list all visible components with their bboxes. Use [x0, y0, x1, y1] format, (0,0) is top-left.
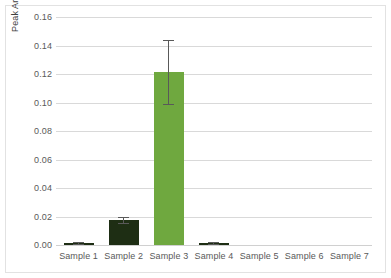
error-bar-cap-lower — [208, 244, 219, 245]
bar-group — [327, 17, 372, 245]
x-axis-tick-label: Sample 1 — [56, 249, 101, 263]
y-axis-tick-label: 0.02 — [6, 212, 52, 222]
y-axis-tick-label: 0.14 — [6, 41, 52, 51]
error-bar-cap-upper — [208, 242, 219, 243]
error-bar-cap-upper — [118, 217, 129, 218]
bar-group — [282, 17, 327, 245]
bar-group — [237, 17, 282, 245]
y-axis-tick-label: 0.08 — [6, 126, 52, 136]
x-axis-tick-label: Sample 5 — [237, 249, 282, 263]
bar-group — [56, 17, 101, 245]
bar-group — [191, 17, 236, 245]
x-axis-tick-label: Sample 6 — [282, 249, 327, 263]
bar-group — [146, 17, 191, 245]
bar-group — [101, 17, 146, 245]
gridline — [56, 245, 372, 246]
x-axis-tick-labels: Sample 1Sample 2Sample 3Sample 4Sample 5… — [56, 249, 372, 265]
y-axis-tick-label: 0.06 — [6, 155, 52, 165]
x-axis-tick-label: Sample 2 — [101, 249, 146, 263]
y-axis-tick-label: 0.12 — [6, 69, 52, 79]
x-axis-tick-label: Sample 4 — [191, 249, 236, 263]
error-bar-cap-lower — [73, 244, 84, 245]
error-bar-cap-lower — [163, 104, 174, 105]
error-bar-cap-upper — [163, 40, 174, 41]
y-axis-tick-label: 0.04 — [6, 183, 52, 193]
error-bar-cap-lower — [118, 223, 129, 224]
y-axis-tick-label: 0.10 — [6, 98, 52, 108]
error-bar-line — [168, 40, 169, 105]
y-axis-tick-label: 0.16 — [6, 12, 52, 22]
x-axis-tick-label: Sample 3 — [146, 249, 191, 263]
x-axis-tick-label: Sample 7 — [327, 249, 372, 263]
plot-area — [56, 17, 372, 245]
y-axis-tick-label: 0.00 — [6, 240, 52, 250]
bar-chart-figure: Peak Area (normalized to IS) 0.000.020.0… — [0, 0, 391, 278]
y-axis-tick-labels: 0.000.020.040.060.080.100.120.140.16 — [0, 17, 52, 245]
